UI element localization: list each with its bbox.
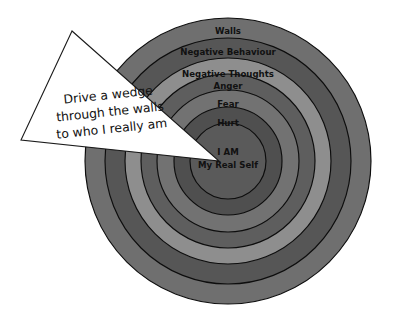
ring-negative-behaviour-label: Negative Behaviour — [180, 47, 276, 57]
concentric-circles-diagram: Drive a wedgethrough the wallsto who I r… — [0, 0, 393, 326]
ring-walls-label: Walls — [215, 26, 241, 36]
ring-hurt-label: Hurt — [217, 118, 239, 128]
ring-negative-thoughts-label: Negative Thoughts — [182, 69, 274, 79]
diagram-canvas: Drive a wedgethrough the wallsto who I r… — [0, 0, 393, 326]
ring-fear-label: Fear — [217, 99, 239, 109]
ring-core-label-secondary: My Real Self — [198, 160, 258, 170]
ring-core-label: I AM — [217, 147, 238, 157]
ring-anger-label: Anger — [214, 81, 244, 91]
